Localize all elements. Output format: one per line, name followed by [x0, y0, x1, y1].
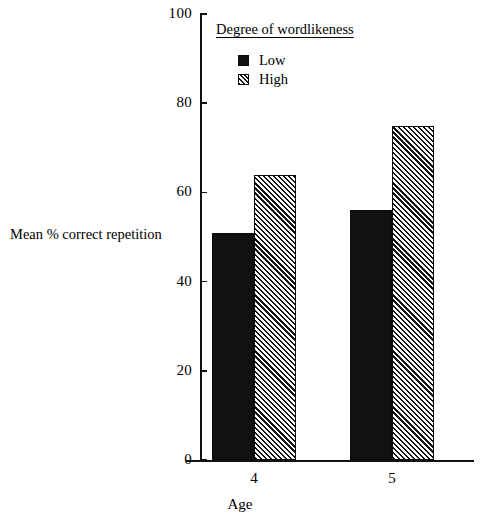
legend-items: LowHigh: [238, 52, 354, 88]
bar-5-high: [392, 126, 434, 461]
legend-swatch-icon: [238, 55, 249, 66]
x-axis-tick-label: 4: [224, 470, 284, 486]
legend: Degree of wordlikeness LowHigh: [216, 20, 354, 90]
bar-4-low: [212, 233, 254, 460]
legend-entry-label: High: [259, 72, 288, 87]
bar-4-high: [254, 175, 296, 460]
legend-entry-low: Low: [238, 52, 354, 69]
bar-5-low: [350, 210, 392, 460]
legend-title: Degree of wordlikeness: [216, 20, 354, 38]
y-axis-title: Mean % correct repetition: [10, 226, 162, 242]
bar-chart-figure: 020406080100 45 Age Mean % correct repet…: [0, 0, 480, 519]
x-axis-tick-label: 5: [362, 470, 422, 486]
legend-entry-high: High: [238, 71, 354, 88]
legend-entry-label: Low: [259, 53, 286, 68]
legend-swatch-icon: [238, 74, 249, 85]
x-axis-title: Age: [0, 496, 480, 512]
